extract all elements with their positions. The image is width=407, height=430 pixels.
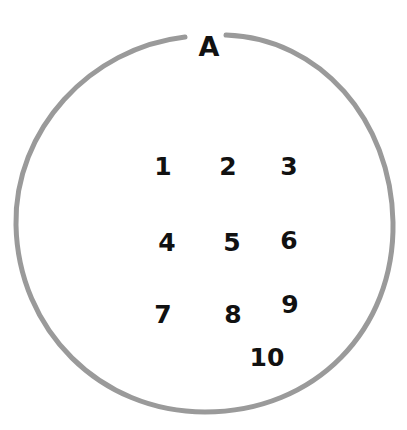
set-element-7: 7 xyxy=(154,300,171,329)
set-element-4: 4 xyxy=(158,228,175,257)
set-element-3: 3 xyxy=(280,152,297,181)
set-a-label: A xyxy=(199,31,220,62)
set-element-2: 2 xyxy=(219,152,236,181)
set-element-6: 6 xyxy=(280,226,297,255)
set-element-1: 1 xyxy=(154,152,171,181)
set-element-9: 9 xyxy=(281,290,298,319)
set-a-boundary xyxy=(16,35,393,412)
set-element-8: 8 xyxy=(224,300,241,329)
set-element-5: 5 xyxy=(223,228,240,257)
set-diagram-canvas: A 12345678910 xyxy=(0,0,407,430)
set-elements: 12345678910 xyxy=(154,152,298,372)
set-element-10: 10 xyxy=(250,343,285,372)
